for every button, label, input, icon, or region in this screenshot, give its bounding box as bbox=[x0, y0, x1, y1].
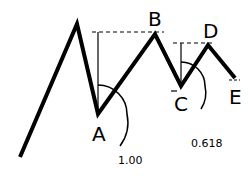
wave-diagram: A B C D E 1.00 0.618 bbox=[0, 0, 248, 179]
label-d: D bbox=[203, 19, 218, 43]
label-a: A bbox=[92, 122, 106, 146]
ratio-0-618: 0.618 bbox=[191, 137, 223, 150]
ratio-1-00: 1.00 bbox=[118, 154, 143, 167]
label-e: E bbox=[229, 85, 242, 109]
label-c: C bbox=[174, 92, 188, 116]
label-b: B bbox=[148, 7, 162, 31]
